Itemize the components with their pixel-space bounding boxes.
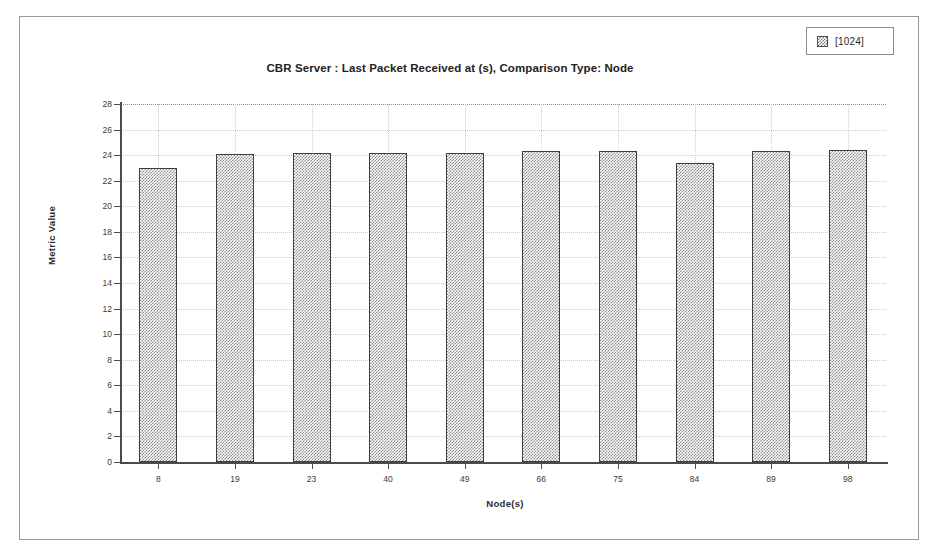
x-tick-label: 89 (746, 474, 796, 484)
y-tick (114, 462, 120, 463)
x-tick-label: 98 (823, 474, 873, 484)
y-tick-label: 18 (86, 227, 112, 237)
x-tick-label: 23 (287, 474, 337, 484)
x-tick (388, 462, 389, 469)
y-axis-title: Metric Value (46, 181, 57, 291)
legend-label: [1024] (835, 36, 864, 47)
bar[interactable] (522, 151, 560, 462)
y-tick-label: 22 (86, 176, 112, 186)
plot-canvas (120, 104, 886, 462)
bar[interactable] (829, 150, 867, 462)
y-tick (114, 130, 120, 131)
bar[interactable] (446, 153, 484, 462)
y-tick (114, 257, 120, 258)
x-tick-label: 19 (210, 474, 260, 484)
y-tick-label: 12 (86, 304, 112, 314)
bar[interactable] (139, 168, 177, 462)
plot-area (120, 104, 886, 462)
chart-title: CBR Server : Last Packet Received at (s)… (0, 62, 900, 74)
y-tick (114, 155, 120, 156)
x-tick (541, 462, 542, 469)
bar[interactable] (676, 163, 714, 462)
y-tick-label: 0 (86, 457, 112, 467)
x-tick (771, 462, 772, 469)
bar[interactable] (599, 151, 637, 462)
y-tick (114, 334, 120, 335)
x-tick (618, 462, 619, 469)
bar[interactable] (293, 153, 331, 462)
bar[interactable] (752, 151, 790, 462)
bar[interactable] (369, 153, 407, 462)
y-tick-label: 8 (86, 355, 112, 365)
y-tick (114, 206, 120, 207)
y-tick (114, 385, 120, 386)
y-tick-label: 2 (86, 431, 112, 441)
y-tick (114, 411, 120, 412)
x-tick (235, 462, 236, 469)
x-tick-label: 84 (670, 474, 720, 484)
legend-swatch-icon (817, 36, 828, 47)
y-tick-label: 26 (86, 125, 112, 135)
y-tick (114, 309, 120, 310)
y-tick-label: 6 (86, 380, 112, 390)
y-tick-label: 10 (86, 329, 112, 339)
chart-window: [1024] CBR Server : Last Packet Received… (0, 0, 933, 557)
y-tick (114, 283, 120, 284)
y-tick (114, 232, 120, 233)
x-tick-label: 49 (440, 474, 490, 484)
y-tick (114, 360, 120, 361)
x-axis-title: Node(s) (120, 498, 890, 509)
x-tick-label: 75 (593, 474, 643, 484)
y-tick-label: 20 (86, 201, 112, 211)
y-tick-label: 28 (86, 99, 112, 109)
x-tick-label: 40 (363, 474, 413, 484)
y-tick (114, 436, 120, 437)
y-tick-label: 24 (86, 150, 112, 160)
y-tick (114, 181, 120, 182)
x-tick (158, 462, 159, 469)
x-tick (312, 462, 313, 469)
x-tick (695, 462, 696, 469)
chart-legend: [1024] (806, 27, 894, 55)
y-tick-label: 4 (86, 406, 112, 416)
bar[interactable] (216, 154, 254, 462)
x-tick (848, 462, 849, 469)
x-tick-label: 66 (516, 474, 566, 484)
y-axis-line (120, 102, 122, 464)
x-tick-label: 8 (133, 474, 183, 484)
y-tick-label: 16 (86, 252, 112, 262)
y-tick-label: 14 (86, 278, 112, 288)
x-tick (465, 462, 466, 469)
y-tick (114, 104, 120, 105)
